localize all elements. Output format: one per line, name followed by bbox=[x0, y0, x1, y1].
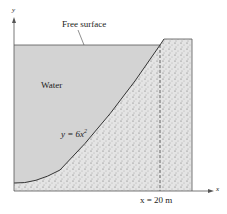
dam-diagram: y x Free surface Water y = 6x2 x = 20 m bbox=[0, 0, 227, 214]
y-axis-arrow-icon bbox=[12, 17, 16, 23]
diagram-graphic bbox=[0, 0, 227, 214]
x-marker-label: x = 20 m bbox=[140, 195, 172, 205]
curve-equation: y = 6x bbox=[61, 129, 84, 139]
x-axis-label: x bbox=[216, 185, 219, 193]
y-axis-label: y bbox=[12, 6, 15, 14]
water-label: Water bbox=[41, 80, 62, 90]
free-surface-label: Free surface bbox=[62, 19, 106, 29]
curve-label: y = 6x2 bbox=[61, 128, 87, 139]
x-axis-arrow-icon bbox=[208, 189, 214, 193]
curve-exponent: 2 bbox=[84, 128, 87, 134]
